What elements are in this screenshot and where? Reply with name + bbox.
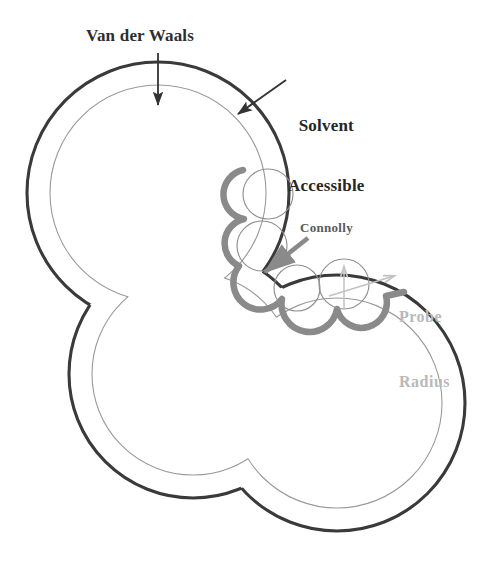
solvent-accessible-label-line2: Accessible [288,176,365,196]
solvent-accessible-label-line1: Solvent [288,116,365,136]
vdw-circle-atom-lower-left [92,273,294,475]
probe-sphere-3 [274,265,320,311]
solvent-accessible-label: Solvent Accessible [288,76,365,236]
probe-sphere-2 [237,221,287,271]
probe-radius-label-line1: Probe [399,306,450,328]
probe-sphere-1 [243,169,293,219]
connolly-label: Connolly [300,220,353,235]
molecular-surface-figure: Van der Waals Solvent Accessible Connoll… [0,0,489,582]
van-der-waals-label: Van der Waals [86,26,194,46]
probe-radius-label: Probe Radius [399,263,450,436]
probe-radius-label-line2: Radius [399,371,450,393]
